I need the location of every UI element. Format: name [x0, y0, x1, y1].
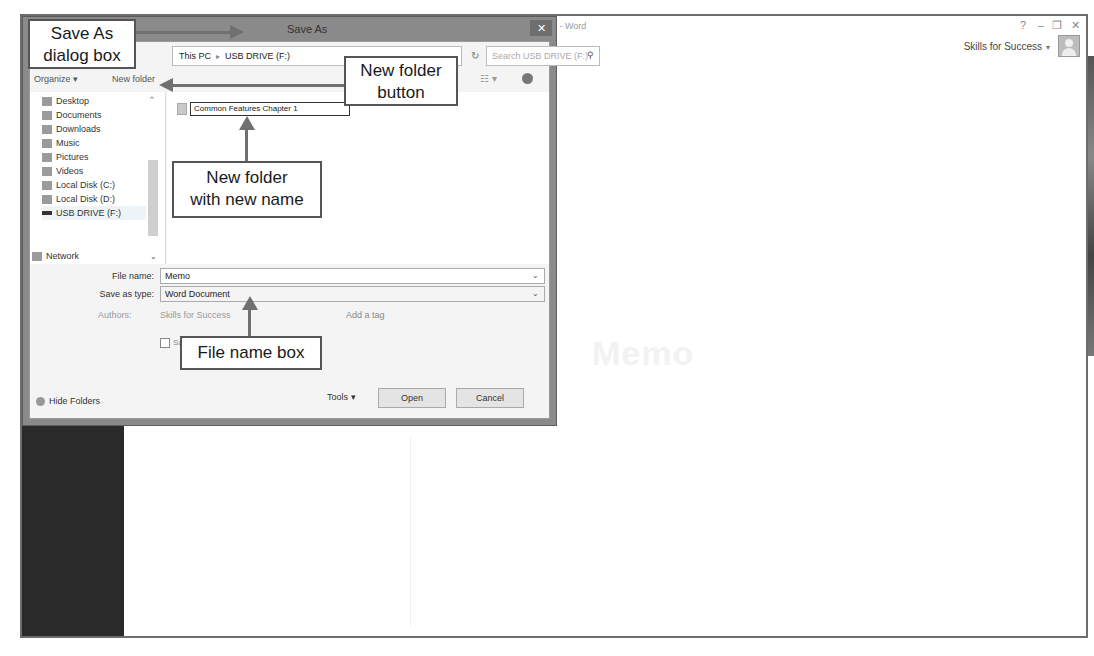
callout-arrow — [245, 128, 248, 161]
videos-icon — [42, 167, 52, 176]
refresh-icon[interactable]: ↻ — [466, 46, 484, 66]
cancel-button[interactable]: Cancel — [456, 388, 524, 408]
usb-drive-icon — [42, 211, 52, 215]
callout-text: New folder — [346, 60, 456, 82]
breadcrumb-this-pc[interactable]: This PC — [179, 51, 211, 61]
nav-item-downloads[interactable]: Downloads — [42, 122, 101, 136]
authors-row: Authors: Skills for Success Add a tag — [30, 310, 549, 326]
music-icon — [42, 139, 52, 148]
dialog-close-button[interactable]: ✕ — [530, 20, 552, 36]
nav-item-desktop[interactable]: Desktop — [42, 94, 89, 108]
tags-input[interactable]: Add a tag — [346, 310, 385, 320]
file-name-value: Memo — [165, 271, 190, 281]
pictures-icon — [42, 153, 52, 162]
save-as-type-row: Save as type: Word Document ⌄ — [30, 286, 549, 302]
desktop-icon — [42, 97, 52, 106]
arrow-head-icon — [230, 25, 244, 39]
hide-folders-button[interactable]: Hide Folders — [36, 396, 100, 406]
collapse-icon — [36, 397, 45, 406]
nav-item-documents[interactable]: Documents — [42, 108, 102, 122]
callout-save-as-dialog: Save As dialog box — [28, 19, 136, 69]
nav-item-label: Music — [56, 138, 80, 148]
callout-new-folder-name: New folder with new name — [172, 161, 322, 218]
dialog-toolbar: Organize ▾ New folder ☷ ▾ — [30, 70, 549, 90]
save-as-type-select[interactable]: Word Document ⌄ — [160, 286, 545, 302]
open-button[interactable]: Open — [378, 388, 446, 408]
authors-input[interactable]: Skills for Success — [160, 310, 231, 320]
callout-arrow — [172, 84, 344, 87]
chevron-down-icon: ▾ — [1046, 43, 1050, 52]
network-icon — [32, 252, 42, 261]
search-icon[interactable]: ⚲ — [587, 50, 594, 60]
scroll-down-icon[interactable]: ⌄ — [150, 252, 157, 261]
drive-icon — [42, 195, 52, 204]
nav-item-usb-drive[interactable]: USB DRIVE (F:) — [42, 206, 146, 220]
navigation-pane: ^ Desktop Documents Downloads Music Pict… — [30, 92, 166, 264]
nav-item-label: Network — [46, 251, 79, 261]
minimize-icon[interactable]: – — [1038, 19, 1044, 31]
arrow-head-icon — [239, 116, 255, 130]
nav-item-local-disk-c[interactable]: Local Disk (C:) — [42, 178, 115, 192]
nav-item-label: Desktop — [56, 96, 89, 106]
breadcrumb-usb-drive[interactable]: USB DRIVE (F:) — [225, 51, 290, 61]
new-folder-button[interactable]: New folder — [112, 74, 155, 84]
breadcrumb-separator-icon: ▸ — [216, 52, 220, 61]
user-avatar-icon[interactable] — [1058, 35, 1080, 57]
nav-item-label: Local Disk (C:) — [56, 180, 115, 190]
chevron-down-icon[interactable]: ⌄ — [532, 271, 539, 280]
document-title-ghost: Memo — [592, 334, 694, 373]
restore-icon[interactable]: ❐ — [1052, 19, 1062, 32]
nav-item-videos[interactable]: Videos — [42, 164, 83, 178]
chevron-down-icon[interactable]: ⌄ — [532, 289, 539, 298]
file-name-input[interactable]: Memo ⌄ — [160, 268, 545, 284]
close-icon[interactable]: ✕ — [1071, 19, 1080, 32]
callout-text: with new name — [174, 189, 320, 211]
organize-button[interactable]: Organize ▾ — [34, 74, 78, 84]
dialog-title: Save As — [287, 23, 327, 35]
nav-item-label: Downloads — [56, 124, 101, 134]
divider — [410, 436, 411, 626]
callout-text: Save As — [30, 23, 134, 45]
nav-item-label: USB DRIVE (F:) — [56, 208, 121, 218]
nav-item-label: Pictures — [56, 152, 89, 162]
callout-text: File name box — [182, 342, 320, 364]
scroll-up-icon[interactable]: ^ — [150, 94, 154, 103]
nav-item-local-disk-d[interactable]: Local Disk (D:) — [42, 192, 115, 206]
word-title: 1 - Word — [552, 21, 586, 31]
callout-text: New folder — [174, 167, 320, 189]
folder-item[interactable]: Common Features Chapter 1 — [177, 102, 350, 116]
backstage-left-panel — [22, 422, 124, 636]
documents-icon — [42, 111, 52, 120]
save-as-type-label: Save as type: — [30, 289, 154, 299]
tools-button[interactable]: Tools ▾ — [327, 392, 356, 402]
search-placeholder: Search USB DRIVE (F:) — [492, 51, 588, 61]
nav-item-label: Videos — [56, 166, 83, 176]
callout-text: button — [346, 82, 456, 104]
help-icon[interactable]: ? — [1020, 19, 1026, 31]
window-edge — [1088, 56, 1094, 356]
arrow-head-icon — [159, 78, 173, 92]
downloads-icon — [42, 125, 52, 134]
file-name-row: File name: Memo ⌄ — [30, 268, 549, 284]
nav-item-label: Local Disk (D:) — [56, 194, 115, 204]
authors-label: Authors: — [98, 310, 132, 320]
callout-arrow — [248, 306, 251, 336]
change-view-button[interactable]: ☷ ▾ — [480, 73, 497, 84]
search-input[interactable]: Search USB DRIVE (F:) ⚲ — [486, 46, 600, 66]
account-menu[interactable]: Skills for Success▾ — [964, 41, 1050, 52]
folder-icon — [177, 103, 187, 115]
nav-item-network[interactable]: Network — [32, 250, 79, 262]
folder-rename-input[interactable]: Common Features Chapter 1 — [190, 102, 350, 116]
callout-arrow — [136, 31, 232, 34]
callout-text: dialog box — [30, 45, 134, 67]
save-as-type-value: Word Document — [165, 289, 230, 299]
drive-icon — [42, 181, 52, 190]
nav-item-music[interactable]: Music — [42, 136, 80, 150]
file-name-label: File name: — [30, 271, 154, 281]
callout-file-name-box: File name box — [180, 336, 322, 370]
help-icon[interactable] — [522, 73, 533, 84]
nav-scrollbar[interactable] — [148, 160, 158, 236]
nav-item-pictures[interactable]: Pictures — [42, 150, 89, 164]
hide-folders-label: Hide Folders — [49, 396, 100, 406]
save-thumbnail-checkbox[interactable] — [160, 338, 170, 348]
